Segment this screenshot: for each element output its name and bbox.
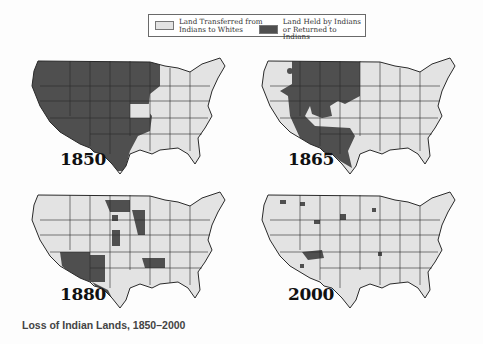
- legend-label: Indians to Whites: [179, 26, 263, 34]
- map-year-label: 1865: [288, 149, 334, 169]
- legend-item-held: Land Held by Indiansor Returned to India…: [259, 18, 365, 41]
- legend-item-transferred: Land Transferred fromIndians to Whites: [155, 18, 263, 33]
- map-legend: Land Transferred fromIndians to Whites L…: [148, 14, 366, 37]
- figure-caption: Loss of Indian Lands, 1850–2000: [22, 319, 185, 331]
- map-year-label: 2000: [288, 284, 334, 304]
- legend-swatch-light: [155, 21, 174, 30]
- legend-label: or Returned to Indians: [283, 26, 365, 41]
- map-year-label: 1880: [60, 284, 106, 304]
- legend-swatch-dark: [259, 25, 278, 34]
- map-year-label: 1850: [60, 149, 106, 169]
